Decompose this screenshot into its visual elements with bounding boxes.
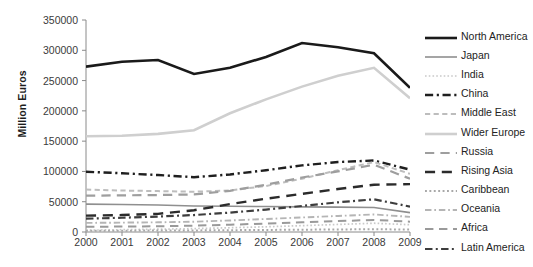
legend-line-swatch <box>424 126 458 138</box>
y-tick-label: 100000 <box>20 166 78 176</box>
legend-item[interactable]: China <box>424 84 533 103</box>
x-tick-label: 2005 <box>246 236 286 248</box>
legend-line-swatch <box>424 183 458 195</box>
legend-item[interactable]: Middle East <box>424 103 533 122</box>
x-tick-label: 2007 <box>318 236 358 248</box>
legend-label: Africa <box>461 221 488 233</box>
series-lines <box>86 20 410 232</box>
legend-line-swatch <box>424 30 458 42</box>
legend-line-swatch <box>424 221 458 233</box>
y-tick-label: 250000 <box>20 76 78 86</box>
legend-item[interactable]: Latin America <box>424 237 533 256</box>
x-axis-tick-labels: 2000200120022003200420052006200720082009 <box>86 236 410 252</box>
x-tick-label: 2004 <box>210 236 250 248</box>
series-line <box>86 220 410 227</box>
series-line <box>86 199 410 218</box>
series-line <box>86 229 410 231</box>
legend-label: Caribbean <box>461 183 509 195</box>
x-tick-label: 2008 <box>354 236 394 248</box>
legend-item[interactable]: Caribbean <box>424 180 533 199</box>
series-line <box>86 165 410 196</box>
legend-line-swatch <box>424 241 458 253</box>
x-tick-label: 2000 <box>66 236 106 248</box>
legend-label: Oceania <box>461 202 500 214</box>
y-tick-label: 150000 <box>20 136 78 146</box>
y-tick-label: 300000 <box>20 45 78 55</box>
plot-area <box>86 20 410 232</box>
legend-label: Wider Europe <box>461 126 525 138</box>
series-line <box>86 43 410 88</box>
legend-line-swatch <box>424 68 458 80</box>
x-tick-label: 2003 <box>174 236 214 248</box>
legend-label: Russia <box>461 145 493 157</box>
legend-line-swatch <box>424 145 458 157</box>
legend-item[interactable]: India <box>424 64 533 83</box>
series-line <box>86 68 410 136</box>
legend-line-swatch <box>424 202 458 214</box>
legend-label: Rising Asia <box>461 164 513 176</box>
y-axis-tick-labels: 0500001000001500002000002500003000003500… <box>20 0 78 267</box>
y-tick-label: 200000 <box>20 106 78 116</box>
y-tick-label: 50000 <box>20 197 78 207</box>
legend-line-swatch <box>424 164 458 176</box>
y-tick-label: 350000 <box>20 15 78 25</box>
legend-item[interactable]: Wider Europe <box>424 122 533 141</box>
legend-item[interactable]: Japan <box>424 45 533 64</box>
legend-line-swatch <box>424 49 458 61</box>
legend-label: India <box>461 68 484 80</box>
x-tick-label: 2001 <box>102 236 142 248</box>
legend-item[interactable]: Rising Asia <box>424 160 533 179</box>
legend-item[interactable]: North America <box>424 26 533 45</box>
legend-label: China <box>461 87 488 99</box>
x-tick-label: 2002 <box>138 236 178 248</box>
legend-label: Latin America <box>461 241 525 253</box>
legend-line-swatch <box>424 106 458 118</box>
line-chart: Million Euros 05000010000015000020000025… <box>0 0 533 267</box>
legend-label: North America <box>461 30 528 42</box>
legend-label: Japan <box>461 49 490 61</box>
legend-line-swatch <box>424 87 458 99</box>
series-line <box>86 161 410 178</box>
chart-legend: North AmericaJapanIndiaChinaMiddle EastW… <box>424 26 533 256</box>
series-line <box>86 214 410 222</box>
legend-item[interactable]: Oceania <box>424 199 533 218</box>
legend-item[interactable]: Russia <box>424 141 533 160</box>
legend-label: Middle East <box>461 106 516 118</box>
x-tick-label: 2006 <box>282 236 322 248</box>
legend-item[interactable]: Africa <box>424 218 533 237</box>
